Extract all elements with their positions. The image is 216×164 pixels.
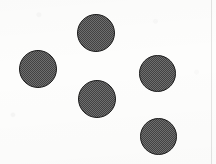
circle-top	[77, 14, 115, 52]
right-scan-edge-line	[211, 0, 212, 164]
circle-bottom-right	[140, 118, 177, 155]
circle-right	[139, 55, 176, 92]
circle-left	[19, 50, 57, 88]
figure-canvas	[0, 0, 216, 164]
circle-center	[78, 80, 116, 118]
